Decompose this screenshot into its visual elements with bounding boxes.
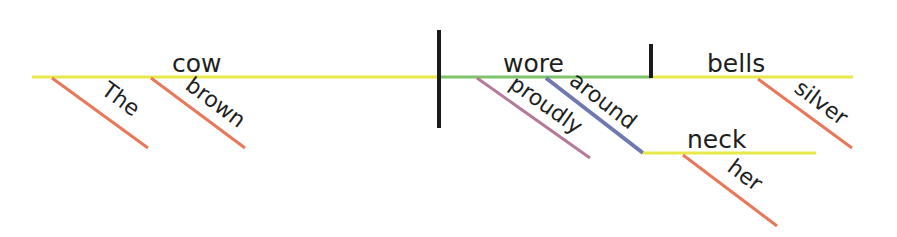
modifier-word-silver: silver — [790, 75, 853, 131]
verb-word: wore — [503, 49, 564, 78]
sentence-diagram: cow wore bells neck The brown proudly ar… — [0, 0, 897, 237]
prepositional-object-word: neck — [687, 125, 747, 154]
modifier-word-brown: brown — [181, 72, 250, 133]
object-word: bells — [707, 49, 765, 78]
